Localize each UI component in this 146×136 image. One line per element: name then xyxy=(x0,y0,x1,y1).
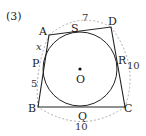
center-point-o xyxy=(78,67,81,70)
vertex-label-c: C xyxy=(124,102,132,115)
problem-label: (3) xyxy=(6,10,22,23)
length-label-bc: 10 xyxy=(75,121,88,132)
tangent-label-r: R xyxy=(118,54,127,67)
tangent-label-s: S xyxy=(71,22,79,35)
geometry-figure: (3) A D B C O S P R Q 7 10 10 5 x xyxy=(0,0,146,136)
vertex-label-b: B xyxy=(28,102,36,115)
length-label-ap: x xyxy=(36,41,42,52)
center-label-o: O xyxy=(76,73,85,86)
length-label-pb: 5 xyxy=(31,78,37,89)
length-label-ad: 7 xyxy=(82,12,88,23)
dashed-arc-top xyxy=(49,20,111,35)
vertex-label-a: A xyxy=(38,25,48,38)
length-label-dc: 10 xyxy=(127,60,140,71)
quadrilateral-abcd xyxy=(38,27,125,107)
tangent-label-p: P xyxy=(32,57,40,70)
vertex-label-d: D xyxy=(108,15,117,28)
